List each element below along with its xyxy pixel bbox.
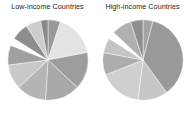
pie-svg-low-income: [7, 19, 89, 101]
pie-chart-figure: Low-income Countries High-income Countri…: [0, 0, 190, 122]
panel-high-income: High-income Countries: [95, 0, 190, 122]
pie-slices-low-income: [7, 20, 87, 100]
pie-chart-high-income: [102, 19, 184, 101]
panel-title-low-income: Low-income Countries: [0, 2, 95, 11]
pie-slices-high-income: [102, 20, 182, 100]
pie-chart-low-income: [7, 19, 89, 101]
panel-title-high-income: High-income Countries: [95, 2, 190, 11]
pie-svg-high-income: [102, 19, 184, 101]
panel-low-income: Low-income Countries: [0, 0, 95, 122]
